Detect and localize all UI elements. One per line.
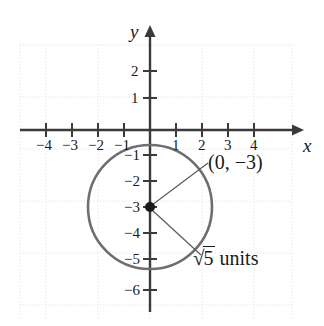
center-point-marker: [145, 202, 155, 212]
units-word: units: [220, 247, 259, 269]
y-tick-label--2: −2: [124, 174, 140, 189]
y-tick-label--4: −4: [124, 226, 140, 241]
x-tick-label--4: −4: [36, 138, 52, 153]
leader-lines: [152, 163, 208, 255]
y-tick-label--6: −6: [124, 283, 140, 298]
y-tick-label--5: −5: [124, 252, 140, 267]
x-tick-label--3: −3: [62, 138, 78, 153]
x-axis-label: x: [303, 136, 311, 155]
x-tick-label-2: 2: [198, 138, 206, 153]
y-tick-label-2: 2: [131, 64, 139, 79]
y-tick-label--3: −3: [124, 200, 140, 215]
y-tick-label-1: 1: [131, 91, 139, 106]
x-tick-label--2: −2: [88, 138, 104, 153]
center-point-label: (0, −3): [208, 152, 263, 172]
x-tick-label-1: 1: [172, 138, 180, 153]
y-tick-label--1: −1: [124, 148, 140, 163]
square-root-expression: √5: [193, 248, 215, 269]
radicand: 5: [203, 246, 215, 269]
y-axis-label: y: [130, 22, 138, 41]
x-axis: [20, 125, 304, 136]
graph-figure: y x −4 −3 −2 −1 1 2 3 4 2 1 −1 −2 −3 −4 …: [0, 0, 324, 326]
radius-label: √5 units: [193, 248, 258, 269]
coordinate-plane-svg: [0, 0, 324, 326]
